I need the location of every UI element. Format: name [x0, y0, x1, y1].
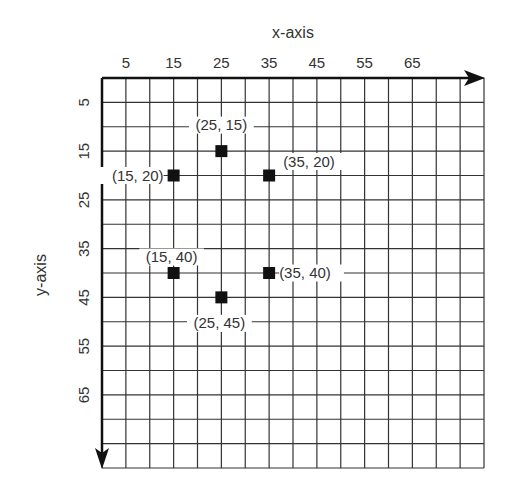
y-tick-label: 45 [75, 289, 92, 306]
data-point: (35, 20) [263, 153, 348, 182]
square-marker-icon [215, 145, 227, 157]
x-tick-label: 25 [213, 54, 230, 71]
x-axis-ticks: 5152535455565 [122, 54, 421, 71]
square-marker-icon [168, 267, 180, 279]
y-tick-label: 25 [75, 192, 92, 209]
coordinate-grid-chart: x-axis y-axis 5152535455565 515253545556… [0, 0, 509, 492]
point-label: (15, 40) [146, 248, 198, 265]
x-tick-label: 15 [165, 54, 182, 71]
point-label: (25, 45) [194, 314, 246, 331]
square-marker-icon [168, 170, 180, 182]
y-tick-label: 35 [75, 240, 92, 257]
x-tick-label: 35 [261, 54, 278, 71]
y-axis-title: y-axis [32, 254, 49, 296]
x-tick-label: 45 [309, 54, 326, 71]
square-marker-icon [263, 170, 275, 182]
y-tick-label: 5 [75, 98, 92, 106]
point-label: (35, 40) [279, 264, 331, 281]
y-tick-label: 65 [75, 387, 92, 404]
y-tick-label: 15 [75, 143, 92, 160]
y-axis-ticks: 5152535455565 [75, 98, 92, 403]
x-tick-label: 5 [122, 54, 130, 71]
square-marker-icon [263, 267, 275, 279]
point-label: (25, 15) [196, 116, 248, 133]
data-point: (15, 40) [139, 248, 204, 279]
x-axis-title: x-axis [272, 24, 314, 41]
point-label: (35, 20) [283, 153, 335, 170]
point-label: (15, 20) [112, 167, 164, 184]
y-tick-label: 55 [75, 338, 92, 355]
x-tick-label: 65 [404, 54, 421, 71]
square-marker-icon [215, 291, 227, 303]
x-tick-label: 55 [356, 54, 373, 71]
